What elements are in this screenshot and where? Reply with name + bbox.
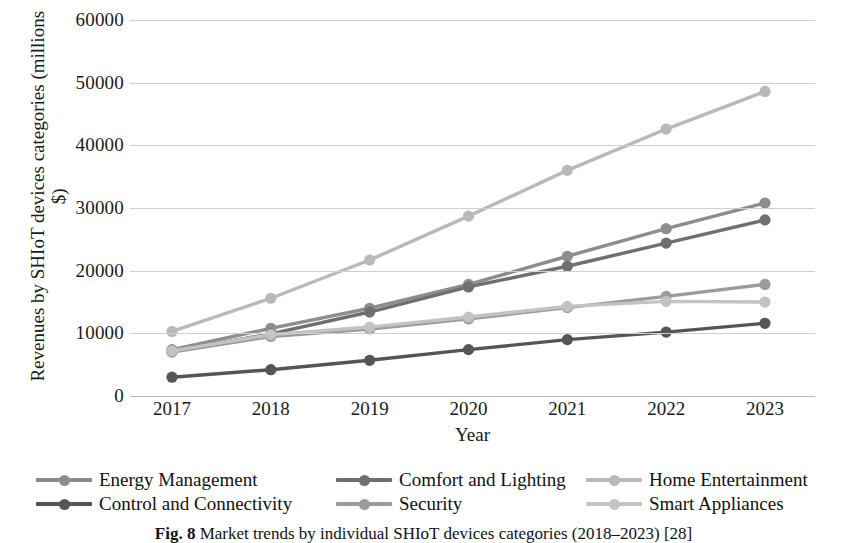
- data-point: [661, 237, 672, 248]
- data-point: [364, 306, 375, 317]
- data-point: [562, 301, 573, 312]
- legend-label: Home Entertainment: [649, 469, 808, 491]
- x-tick-label-2017: 2017: [127, 398, 217, 420]
- data-point: [759, 86, 770, 97]
- data-point: [759, 318, 770, 329]
- legend-item-energy-management[interactable]: Energy Management: [36, 469, 336, 491]
- series-home-entertainment: [166, 86, 770, 337]
- data-point: [166, 345, 177, 356]
- data-point: [562, 334, 573, 345]
- y-axis-title-line1: Revenues by SHIoT devices categories (mi…: [27, 11, 48, 382]
- x-tick-label-2021: 2021: [522, 398, 612, 420]
- legend-swatch-icon: [36, 474, 92, 486]
- legend-label: Comfort and Lighting: [399, 469, 566, 491]
- data-point: [661, 123, 672, 134]
- data-point: [463, 281, 474, 292]
- legend-item-home-entertainment[interactable]: Home Entertainment: [586, 469, 826, 491]
- x-tick-label-2018: 2018: [226, 398, 316, 420]
- gridline-10000: [130, 333, 815, 334]
- data-point: [661, 223, 672, 234]
- legend-swatch-icon: [36, 498, 92, 510]
- data-point: [562, 165, 573, 176]
- data-point: [166, 326, 177, 337]
- data-point: [265, 293, 276, 304]
- legend-label: Smart Appliances: [649, 493, 784, 515]
- legend-swatch-icon: [336, 474, 392, 486]
- data-point: [463, 211, 474, 222]
- x-tick-label-2020: 2020: [424, 398, 514, 420]
- gridline-40000: [130, 145, 815, 146]
- figure-caption: Fig. 8 Market trends by individual SHIoT…: [0, 524, 847, 543]
- legend-label: Security: [399, 493, 462, 515]
- legend-swatch-icon: [586, 498, 642, 510]
- data-point: [759, 214, 770, 225]
- y-axis-title-line2: $): [48, 0, 69, 396]
- data-point: [759, 296, 770, 307]
- data-point: [562, 251, 573, 262]
- data-point: [364, 355, 375, 366]
- x-tick-label-2023: 2023: [720, 398, 810, 420]
- x-tick-label-2022: 2022: [621, 398, 711, 420]
- gridline-50000: [130, 83, 815, 84]
- plot-area: [130, 20, 815, 396]
- chart-legend: Energy ManagementComfort and LightingHom…: [36, 468, 826, 516]
- x-tick-label-2019: 2019: [325, 398, 415, 420]
- legend-item-comfort-and-lighting[interactable]: Comfort and Lighting: [336, 469, 586, 491]
- figure-caption-text: Market trends by individual SHIoT device…: [200, 524, 693, 543]
- data-point: [166, 372, 177, 383]
- data-point: [265, 329, 276, 340]
- figure-caption-label: Fig. 8: [155, 524, 196, 543]
- data-point: [265, 364, 276, 375]
- data-point: [661, 296, 672, 307]
- series-control-and-connectivity: [166, 318, 770, 383]
- legend-swatch-icon: [336, 498, 392, 510]
- legend-item-smart-appliances[interactable]: Smart Appliances: [586, 493, 826, 515]
- legend-item-control-and-connectivity[interactable]: Control and Connectivity: [36, 493, 336, 515]
- data-point: [463, 311, 474, 322]
- data-point: [661, 326, 672, 337]
- data-point: [759, 197, 770, 208]
- legend-item-security[interactable]: Security: [336, 493, 586, 515]
- gridline-60000: [130, 20, 815, 21]
- gridline-30000: [130, 208, 815, 209]
- legend-label: Control and Connectivity: [99, 493, 292, 515]
- figure-smart-home-iot-market-trends: 0100002000030000400005000060000 Revenues…: [0, 0, 847, 543]
- data-point: [759, 279, 770, 290]
- series-line: [172, 301, 765, 351]
- y-axis-title: Revenues by SHIoT devices categories (mi…: [27, 0, 70, 396]
- data-point: [364, 321, 375, 332]
- series-line: [172, 203, 765, 350]
- data-point: [463, 344, 474, 355]
- data-point: [364, 254, 375, 265]
- x-axis-title: Year: [130, 424, 815, 446]
- legend-swatch-icon: [586, 474, 642, 486]
- gridline-0: [130, 396, 815, 397]
- gridline-20000: [130, 271, 815, 272]
- legend-label: Energy Management: [99, 469, 257, 491]
